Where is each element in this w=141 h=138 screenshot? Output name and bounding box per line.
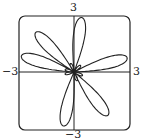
x-min-label: −3 xyxy=(2,65,18,78)
x-max-label: 3 xyxy=(133,65,140,78)
y-min-label: −3 xyxy=(65,128,81,138)
y-max-label: 3 xyxy=(70,1,77,14)
polar-plot xyxy=(0,0,141,138)
